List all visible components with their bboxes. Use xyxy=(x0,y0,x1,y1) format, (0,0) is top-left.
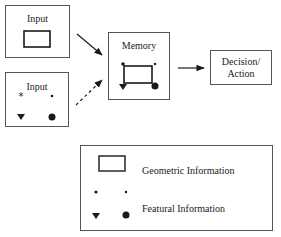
svg-text:*: * xyxy=(19,91,24,102)
geometric-shape-icon xyxy=(24,31,50,47)
dashed-arrow-icon xyxy=(76,80,102,105)
memory-combined-icon xyxy=(119,62,159,90)
solid-arrow-icon xyxy=(77,34,102,55)
diagram-graphics: * xyxy=(0,0,281,237)
featural-symbols-icon: * xyxy=(17,91,56,121)
legend-featural-icon xyxy=(92,190,130,219)
legend-geometric-icon xyxy=(99,156,125,171)
